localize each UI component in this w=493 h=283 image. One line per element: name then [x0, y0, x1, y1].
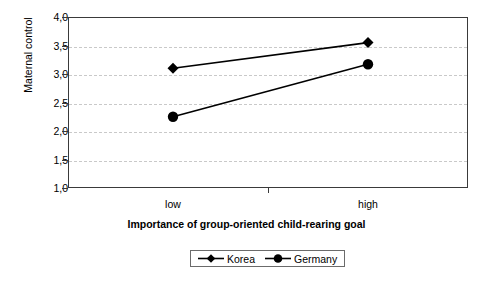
legend-marker-diamond-icon	[198, 253, 224, 264]
legend-entry-korea: Korea	[198, 253, 255, 265]
gridline-3-0	[69, 75, 467, 76]
legend: Korea Germany	[190, 250, 345, 267]
plot-area	[68, 17, 468, 188]
legend-label-germany: Germany	[294, 253, 337, 265]
legend-label-korea: Korea	[227, 253, 255, 265]
x-axis-center-tick	[268, 188, 269, 193]
x-tick-label-high: high	[323, 198, 413, 210]
x-tick-label-low: low	[128, 198, 218, 210]
gridline-2-0	[69, 132, 467, 133]
gridline-2-5	[69, 104, 467, 105]
y-tick-mark-1-0	[62, 188, 68, 189]
legend-marker-circle-icon	[265, 253, 291, 264]
legend-entry-germany: Germany	[265, 253, 337, 265]
gridline-1-5	[69, 161, 467, 162]
y-axis-ticks: 4,0 3,5 3,0 2,5 2,0 1,5 1,0	[0, 0, 68, 283]
line-chart-figure: Maternal control 4,0 3,5 3,0 2,5 2,0 1,5…	[0, 0, 493, 283]
gridline-3-5	[69, 47, 467, 48]
x-axis-title: Importance of group-oriented child-reari…	[0, 218, 493, 230]
